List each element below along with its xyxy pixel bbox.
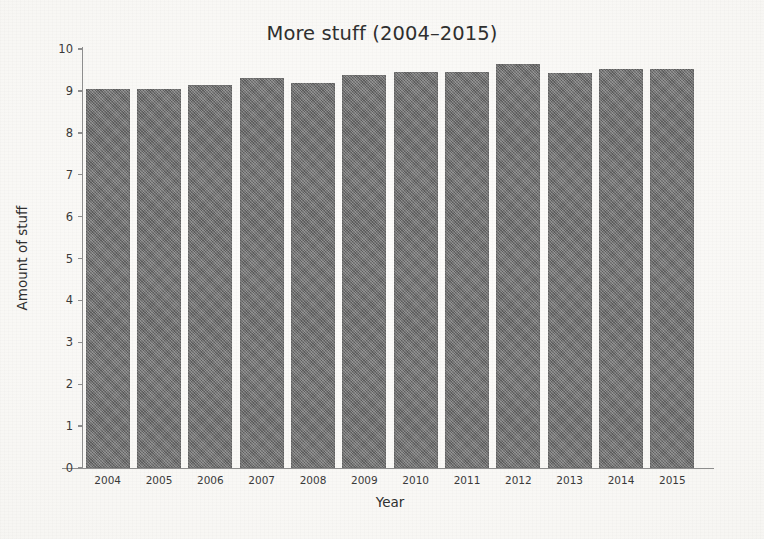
bar-rect (445, 72, 489, 468)
y-tick-label: 0 (66, 461, 82, 475)
y-tick-label: 1 (66, 419, 82, 433)
y-tick-label: 2 (66, 377, 82, 391)
bar-rect (86, 89, 130, 468)
bar-2012 (496, 49, 540, 468)
bar-rect (137, 89, 181, 468)
x-tick-label-2008: 2008 (300, 474, 327, 486)
x-tick-label-2010: 2010 (402, 474, 429, 486)
bar-rect (291, 83, 335, 468)
bar-2009 (342, 49, 386, 468)
y-tick-label: 4 (66, 293, 82, 307)
x-tick-label-2009: 2009 (351, 474, 378, 486)
bar-2006 (188, 49, 232, 468)
x-tick-label-2007: 2007 (248, 474, 275, 486)
bar-2011 (445, 49, 489, 468)
bar-rect (240, 78, 284, 468)
y-axis-title: Amount of stuff (14, 206, 30, 311)
x-axis-line (62, 468, 714, 469)
bar-series (82, 49, 698, 468)
bar-chart-figure: More stuff (2004–2015) 012345678910 2004… (0, 0, 764, 539)
chart-title: More stuff (2004–2015) (0, 22, 764, 45)
x-tick-label-2012: 2012 (505, 474, 532, 486)
bar-rect (342, 75, 386, 468)
x-axis-title: Year (82, 494, 698, 510)
bar-rect (548, 73, 592, 468)
bar-2014 (599, 49, 643, 468)
bar-2005 (137, 49, 181, 468)
x-tick-label-2015: 2015 (659, 474, 686, 486)
y-tick-label: 10 (58, 42, 82, 56)
bar-rect (650, 69, 694, 468)
y-tick-label: 8 (66, 126, 82, 140)
x-tick-label-2014: 2014 (608, 474, 635, 486)
bar-2008 (291, 49, 335, 468)
y-tick-label: 6 (66, 210, 82, 224)
y-tick-label: 5 (66, 252, 82, 266)
bar-2004 (86, 49, 130, 468)
plot-area: 012345678910 (82, 49, 698, 468)
bar-rect (599, 69, 643, 468)
bar-2010 (394, 49, 438, 468)
bar-2013 (548, 49, 592, 468)
x-tick-label-2004: 2004 (94, 474, 121, 486)
bar-rect (188, 85, 232, 468)
x-tick-label-2011: 2011 (454, 474, 481, 486)
bar-2015 (650, 49, 694, 468)
bar-rect (394, 72, 438, 468)
x-tick-label-2013: 2013 (556, 474, 583, 486)
y-tick-label: 7 (66, 168, 82, 182)
x-tick-label-2005: 2005 (146, 474, 173, 486)
y-tick-label: 9 (66, 84, 82, 98)
y-tick-label: 3 (66, 335, 82, 349)
bar-2007 (240, 49, 284, 468)
x-tick-label-2006: 2006 (197, 474, 224, 486)
bar-rect (496, 64, 540, 468)
